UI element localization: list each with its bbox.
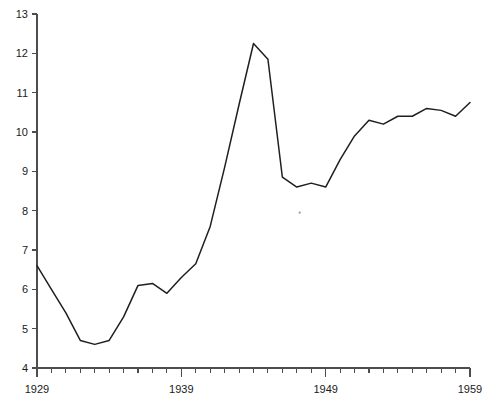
x-tick-label: 1949 <box>313 383 337 395</box>
y-tick-label: 8 <box>22 205 28 217</box>
y-tick-label: 12 <box>16 47 28 59</box>
y-tick-label: 7 <box>22 244 28 256</box>
y-tick-label: 10 <box>16 126 28 138</box>
x-tick-label: 1959 <box>458 383 482 395</box>
annotation-group <box>299 212 301 214</box>
stray-dot-artifact <box>299 212 301 214</box>
series-group <box>37 44 470 345</box>
y-tick-label: 5 <box>22 323 28 335</box>
y-tick-label: 4 <box>22 362 28 374</box>
line-chart: 45678910111213 1929193919491959 <box>0 0 490 404</box>
y-axis: 45678910111213 <box>16 8 37 374</box>
y-tick-label: 6 <box>22 283 28 295</box>
x-tick-label: 1929 <box>25 383 49 395</box>
x-tick-label: 1939 <box>169 383 193 395</box>
x-axis: 1929193919491959 <box>25 368 482 395</box>
y-tick-label: 9 <box>22 165 28 177</box>
y-tick-label: 13 <box>16 8 28 20</box>
chart-container: 45678910111213 1929193919491959 <box>0 0 490 404</box>
series-line <box>37 44 470 345</box>
y-tick-label: 11 <box>17 87 28 99</box>
